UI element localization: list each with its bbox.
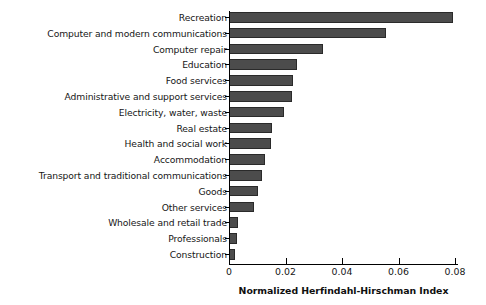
x-tick <box>399 258 400 264</box>
category-tick <box>225 254 229 255</box>
bar <box>230 12 453 23</box>
category-tick <box>225 33 229 34</box>
category-label: Recreation <box>2 12 227 23</box>
bar <box>230 123 272 134</box>
category-tick <box>225 143 229 144</box>
category-tick <box>225 191 229 192</box>
x-tick-label: 0 <box>209 266 249 278</box>
category-tick <box>225 64 229 65</box>
bar <box>230 138 271 149</box>
category-label: Food services <box>2 75 227 86</box>
bar <box>230 202 254 213</box>
x-tick-label: 0.06 <box>379 266 419 278</box>
chart-row: Food services <box>0 74 486 90</box>
category-label: Wholesale and retail trade <box>2 217 227 228</box>
bar-chart: RecreationComputer and modern communicat… <box>0 0 486 305</box>
bar <box>230 186 258 197</box>
x-tick-label: 0.02 <box>266 266 306 278</box>
chart-row: Real estate <box>0 122 486 138</box>
chart-row: Other services <box>0 201 486 217</box>
x-tick-label: 0.04 <box>322 266 362 278</box>
x-axis-title: Normalized Herfindahl-Hirschman Index <box>229 285 458 296</box>
chart-row: Computer and modern communications <box>0 27 486 43</box>
bar <box>230 249 235 260</box>
category-label: Computer repair <box>2 44 227 55</box>
category-label: Computer and modern communications <box>2 28 227 39</box>
x-tick <box>342 258 343 264</box>
bar <box>230 91 292 102</box>
bar <box>230 233 237 244</box>
chart-row: Professionals <box>0 232 486 248</box>
chart-row: Administrative and support services <box>0 90 486 106</box>
x-tick <box>286 258 287 264</box>
category-label: Education <box>2 59 227 70</box>
bar <box>230 75 293 86</box>
x-tick <box>229 258 230 264</box>
category-tick <box>225 128 229 129</box>
bar <box>230 28 386 39</box>
category-tick <box>225 96 229 97</box>
category-tick <box>225 238 229 239</box>
bar <box>230 170 262 181</box>
bar <box>230 217 238 228</box>
chart-row: Health and social work <box>0 137 486 153</box>
bar <box>230 44 323 55</box>
chart-row: Accommodation <box>0 153 486 169</box>
category-tick <box>225 80 229 81</box>
category-tick <box>225 17 229 18</box>
category-tick <box>225 222 229 223</box>
category-label: Electricity, water, waste <box>2 107 227 118</box>
category-tick <box>225 175 229 176</box>
category-label: Real estate <box>2 123 227 134</box>
bar <box>230 59 297 70</box>
category-tick <box>225 207 229 208</box>
chart-row: Computer repair <box>0 43 486 59</box>
chart-row: Goods <box>0 185 486 201</box>
category-label: Other services <box>2 202 227 213</box>
category-label: Professionals <box>2 233 227 244</box>
chart-row: Recreation <box>0 11 486 27</box>
chart-row: Electricity, water, waste <box>0 106 486 122</box>
bar <box>230 107 284 118</box>
category-tick <box>225 159 229 160</box>
category-tick <box>225 112 229 113</box>
bar <box>230 154 265 165</box>
category-label: Administrative and support services <box>2 91 227 102</box>
x-tick-label: 0.08 <box>435 266 475 278</box>
category-tick <box>225 49 229 50</box>
chart-row: Education <box>0 58 486 74</box>
x-axis-line <box>229 264 458 265</box>
chart-row: Wholesale and retail trade <box>0 216 486 232</box>
chart-row: Transport and traditional communications <box>0 169 486 185</box>
category-label: Goods <box>2 186 227 197</box>
category-label: Accommodation <box>2 154 227 165</box>
category-label: Construction <box>2 249 227 260</box>
category-label: Transport and traditional communications <box>2 170 227 181</box>
chart-row: Construction <box>0 248 486 264</box>
x-tick <box>455 258 456 264</box>
category-label: Health and social work <box>2 138 227 149</box>
